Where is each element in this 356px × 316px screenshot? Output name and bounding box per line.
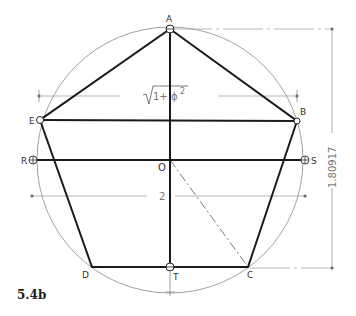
- pentagon: [40, 29, 297, 267]
- point-e-marker: [37, 117, 44, 124]
- label-b: B: [300, 107, 306, 117]
- point-a-marker: [166, 25, 174, 33]
- label-a: A: [166, 14, 173, 24]
- label-r: R: [21, 156, 27, 166]
- height-dim-tick-bottom: [330, 266, 333, 269]
- label-e: E: [29, 116, 35, 126]
- width-dimension-label: 2: [159, 191, 165, 202]
- point-r-marker: [29, 156, 37, 164]
- width-dim-dot-left: [30, 194, 33, 197]
- construction-line-oc: [170, 160, 248, 267]
- pentagon-construction-diagram: 1.80917 1+ ϕ 2 2: [0, 0, 356, 316]
- diagonal-dim-dot-left: [38, 95, 41, 98]
- label-s: S: [311, 156, 317, 166]
- figure-label: 5.4b: [17, 288, 46, 302]
- diagonal-dim-dot-right: [296, 95, 299, 98]
- label-o: O: [158, 162, 166, 173]
- point-b-marker: [294, 118, 300, 124]
- label-t: T: [172, 272, 179, 282]
- width-dim-dot-right: [303, 194, 306, 197]
- label-d: D: [82, 270, 89, 280]
- diagonal-eb: [40, 120, 297, 121]
- point-t-marker: [166, 263, 174, 271]
- sqrt-exponent: 2: [180, 87, 185, 96]
- height-dimension-label: 1.80917: [327, 147, 338, 188]
- sqrt-radicand: 1+ ϕ: [153, 91, 178, 102]
- label-c: C: [247, 270, 253, 280]
- height-dim-tick-top: [330, 27, 333, 30]
- point-s-marker: [301, 156, 309, 164]
